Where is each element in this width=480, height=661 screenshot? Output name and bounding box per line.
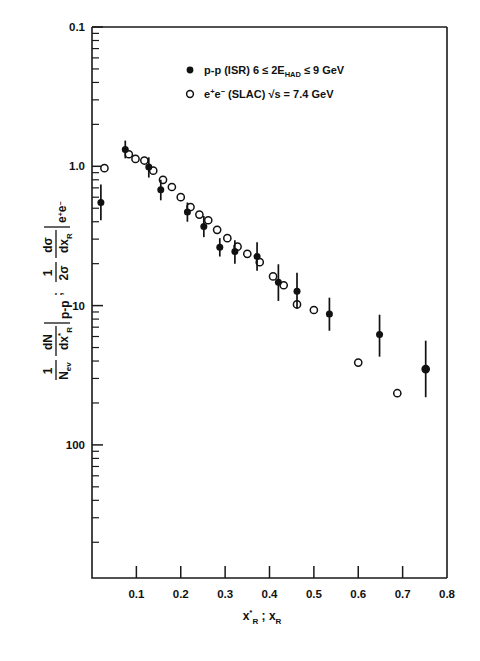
data-point-open-circle [141,157,148,164]
x-tick-label: 0.4 [262,588,279,600]
y-title-left-frac-den: dx*R [56,327,74,350]
data-point-filled-circle [326,311,333,318]
data-point-filled-circle [184,208,191,215]
y-axis-title: 1NevdNdx*Rp-p;12σdσdxRe+e− [41,201,74,380]
data-point-filled-circle [122,146,129,153]
data-point-open-circle [205,217,212,224]
y-tick-label: 1.0 [69,160,85,172]
plot-frame-left-bottom [92,27,447,578]
data-point-filled-circle [376,331,383,338]
data-point-open-circle [214,226,221,233]
y-tick-label: 0.1 [69,21,86,33]
legend-label-pp: p-p (ISR) 6 ≤ 2EHAD ≤ 9 GeV [204,64,345,79]
data-point-open-circle [355,359,362,366]
data-point-open-circle [394,390,401,397]
data-point-filled-circle [97,199,104,206]
y-title-left-sub: p-p [58,300,72,319]
data-point-filled-circle [216,244,223,251]
x-tick-label: 0.1 [128,588,145,600]
data-point-open-circle [101,165,108,172]
data-point-open-circle [177,194,184,201]
data-point-open-circle [132,155,139,162]
y-tick-label: 10 [72,300,85,312]
y-title-left-frac-num: dN [41,334,55,350]
data-point-filled-circle [254,253,261,260]
x-axis-title: x*R ; xR [243,608,282,626]
figure-panel: 0.11.0101000.10.20.30.40.50.60.70.8p-p (… [0,0,480,661]
data-point-filled-circle [422,366,429,373]
y-title-right-sub: e+e− [55,201,69,223]
x-tick-label: 0.6 [350,588,366,600]
data-point-open-circle [196,211,203,218]
y-title-right-frac-num: dσ [41,237,55,253]
data-point-filled-circle [294,288,301,295]
data-point-filled-circle [275,279,282,286]
data-point-filled-circle [145,163,152,170]
scatter-plot: 0.11.0101000.10.20.30.40.50.60.70.8p-p (… [0,0,480,661]
data-point-open-circle [168,183,175,190]
data-point-open-circle [269,273,276,280]
x-tick-label: 0.8 [439,588,456,600]
x-tick-label: 0.5 [306,588,323,600]
y-tick-label: 100 [66,439,85,451]
data-point-open-circle [310,306,317,313]
y-title-right-frac-den: dxR [57,233,74,253]
y-title-left-num: 1 [41,367,55,374]
x-tick-label: 0.2 [173,588,189,600]
legend-label-ee: e+e− (SLAC) √s = 7.4 GeV [204,87,334,100]
legend-marker-filled [187,67,194,74]
x-tick-label: 0.7 [395,588,411,600]
data-point-open-circle [224,235,231,242]
y-title-left-den: Nev [57,362,73,380]
data-point-filled-circle [231,248,238,255]
y-title-separator: ; [51,292,65,296]
x-tick-label: 0.3 [217,588,233,600]
y-title-right-den: 2σ [57,266,71,281]
data-point-filled-circle [157,186,164,193]
data-point-filled-circle [200,223,207,230]
legend-marker-open [187,91,194,98]
y-title-right-num: 1 [41,269,55,276]
data-point-open-circle [244,250,251,257]
